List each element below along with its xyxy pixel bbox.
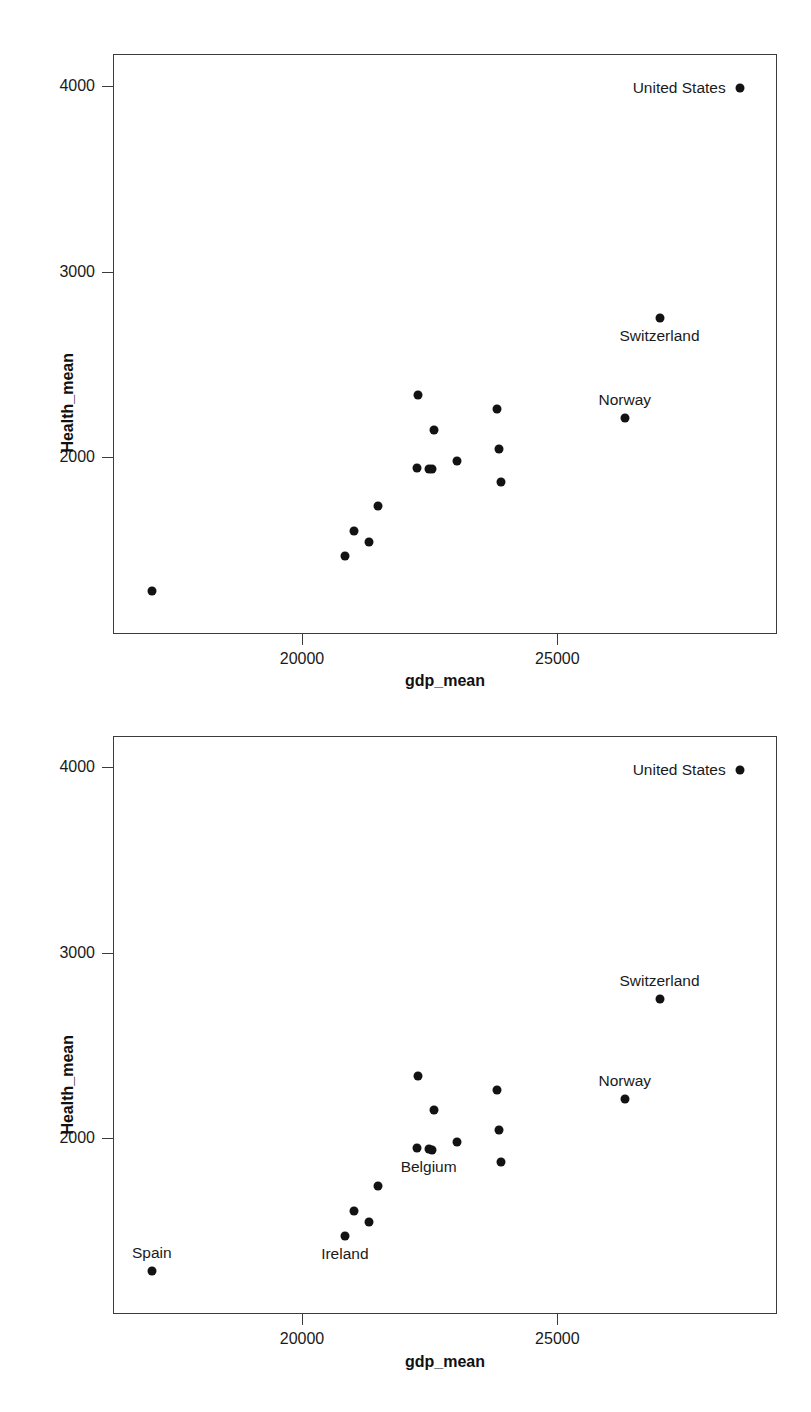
x-axis-tick	[302, 1314, 303, 1325]
data-point	[340, 1232, 349, 1241]
y-axis-tick	[102, 953, 113, 954]
point-label: Spain	[132, 1244, 172, 1262]
data-point	[493, 405, 502, 414]
data-point	[429, 425, 438, 434]
data-point	[494, 445, 503, 454]
data-point	[414, 1072, 423, 1081]
point-label: Norway	[598, 391, 651, 409]
x-axis-tick	[557, 1314, 558, 1325]
y-axis-tick	[102, 1138, 113, 1139]
y-axis-title-bottom: Health_mean	[59, 1035, 77, 1135]
data-point	[364, 538, 373, 547]
data-point	[427, 464, 436, 473]
data-point	[350, 526, 359, 535]
data-point	[655, 995, 664, 1004]
point-label: Norway	[598, 1072, 651, 1090]
data-point	[413, 1144, 422, 1153]
x-axis-tick-label: 25000	[535, 1330, 580, 1348]
x-axis-tick	[302, 634, 303, 645]
point-label: United States	[633, 761, 726, 779]
y-axis-tick-label: 3000	[59, 944, 95, 962]
data-point	[147, 1267, 156, 1276]
data-point	[374, 501, 383, 510]
y-axis-tick	[102, 457, 113, 458]
data-point	[147, 587, 156, 596]
data-point	[620, 1095, 629, 1104]
x-axis-tick	[557, 634, 558, 645]
data-point	[374, 1182, 383, 1191]
data-point	[493, 1085, 502, 1094]
y-axis-tick	[102, 767, 113, 768]
data-point	[452, 1137, 461, 1146]
data-point	[340, 551, 349, 560]
y-axis-tick-label: 3000	[59, 263, 95, 281]
figure-page: United StatesSwitzerlandNorway 200030004…	[0, 0, 811, 1412]
x-axis-tick-label: 20000	[280, 1330, 325, 1348]
data-point	[414, 391, 423, 400]
data-point	[497, 1158, 506, 1167]
data-point	[494, 1125, 503, 1134]
y-axis-title-top: Health_mean	[59, 353, 77, 453]
scatter-panel-bottom: United StatesSwitzerlandNorwayBelgiumIre…	[0, 706, 811, 1412]
data-point	[350, 1207, 359, 1216]
point-label: United States	[633, 79, 726, 97]
data-point	[429, 1106, 438, 1115]
point-label: Switzerland	[619, 972, 699, 990]
plot-area-top: United StatesSwitzerlandNorway	[114, 55, 776, 633]
point-label: Ireland	[321, 1245, 368, 1263]
data-point	[735, 766, 744, 775]
scatter-panel-top: United StatesSwitzerlandNorway 200030004…	[0, 0, 811, 706]
point-label: Belgium	[401, 1158, 457, 1176]
data-point	[427, 1145, 436, 1154]
plot-area-bottom: United StatesSwitzerlandNorwayBelgiumIre…	[114, 737, 776, 1313]
y-axis-tick-label: 4000	[59, 758, 95, 776]
data-point	[452, 457, 461, 466]
x-axis-tick-label: 20000	[280, 650, 325, 668]
data-point	[620, 414, 629, 423]
y-axis-tick-label: 4000	[59, 77, 95, 95]
x-axis-title-bottom: gdp_mean	[405, 1353, 485, 1371]
point-label: Switzerland	[619, 327, 699, 345]
data-point	[497, 477, 506, 486]
x-axis-title-top: gdp_mean	[405, 672, 485, 690]
y-axis-tick	[102, 272, 113, 273]
data-point	[655, 314, 664, 323]
plot-frame-top: United StatesSwitzerlandNorway	[113, 54, 777, 634]
data-point	[364, 1218, 373, 1227]
x-axis-tick-label: 25000	[535, 650, 580, 668]
data-point	[735, 84, 744, 93]
data-point	[413, 463, 422, 472]
plot-frame-bottom: United StatesSwitzerlandNorwayBelgiumIre…	[113, 736, 777, 1314]
y-axis-tick	[102, 86, 113, 87]
